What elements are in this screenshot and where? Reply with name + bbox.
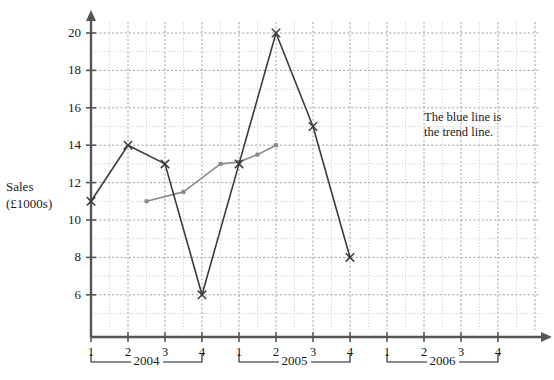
- x-axis-tick-label: 4: [347, 344, 354, 360]
- y-axis-tick-label: 10: [57, 212, 81, 228]
- x-axis-tick-label: 1: [236, 344, 243, 360]
- y-axis-arrow-icon: [86, 10, 96, 21]
- annotation-line-1: The blue line is: [424, 110, 501, 125]
- x-axis-tick-label: 1: [384, 344, 391, 360]
- x-axis-arrow-icon: [541, 332, 552, 342]
- line-chart: Sales (£1000s) The blue line is the tren…: [0, 0, 554, 380]
- x-axis-tick-label: 4: [495, 344, 502, 360]
- x-axis-tick-label: 1: [88, 344, 95, 360]
- y-axis-title-unit: (£1000s): [6, 195, 52, 212]
- data-point-marker: [182, 190, 186, 194]
- y-axis-tick-label: 6: [57, 287, 81, 303]
- year-group-label: 2006: [427, 353, 459, 369]
- x-axis-tick-label: 3: [458, 344, 465, 360]
- x-axis-tick-label: 3: [162, 344, 169, 360]
- y-axis-tick-label: 14: [57, 137, 81, 153]
- chart-axes: [86, 10, 552, 342]
- data-point-marker: [256, 153, 260, 157]
- horizontal-gridlines: [91, 33, 540, 314]
- annotation-line-2: the trend line.: [424, 125, 501, 140]
- data-point-marker: [274, 143, 278, 147]
- year-group-label: 2004: [131, 353, 163, 369]
- chart-canvas: [0, 0, 554, 380]
- y-axis-tick-label: 12: [57, 175, 81, 191]
- x-axis-tick-label: 3: [310, 344, 317, 360]
- trend-line-series: [145, 143, 279, 203]
- x-axis-tick-label: 4: [199, 344, 206, 360]
- year-group-label: 2005: [279, 353, 311, 369]
- y-axis-tick-label: 20: [57, 25, 81, 41]
- y-axis-title: Sales (£1000s): [6, 178, 52, 212]
- y-axis-tick-label: 16: [57, 100, 81, 116]
- data-point-marker: [145, 199, 149, 203]
- trend-line-annotation: The blue line is the trend line.: [424, 110, 501, 140]
- vertical-major-gridlines: [91, 22, 535, 330]
- data-point-marker: [219, 162, 223, 166]
- y-axis-tick-label: 18: [57, 62, 81, 78]
- y-axis-tick-label: 8: [57, 249, 81, 265]
- y-axis-title-main: Sales: [6, 179, 33, 194]
